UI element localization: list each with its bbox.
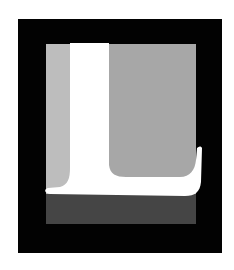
letter-l-glyph — [0, 0, 234, 270]
